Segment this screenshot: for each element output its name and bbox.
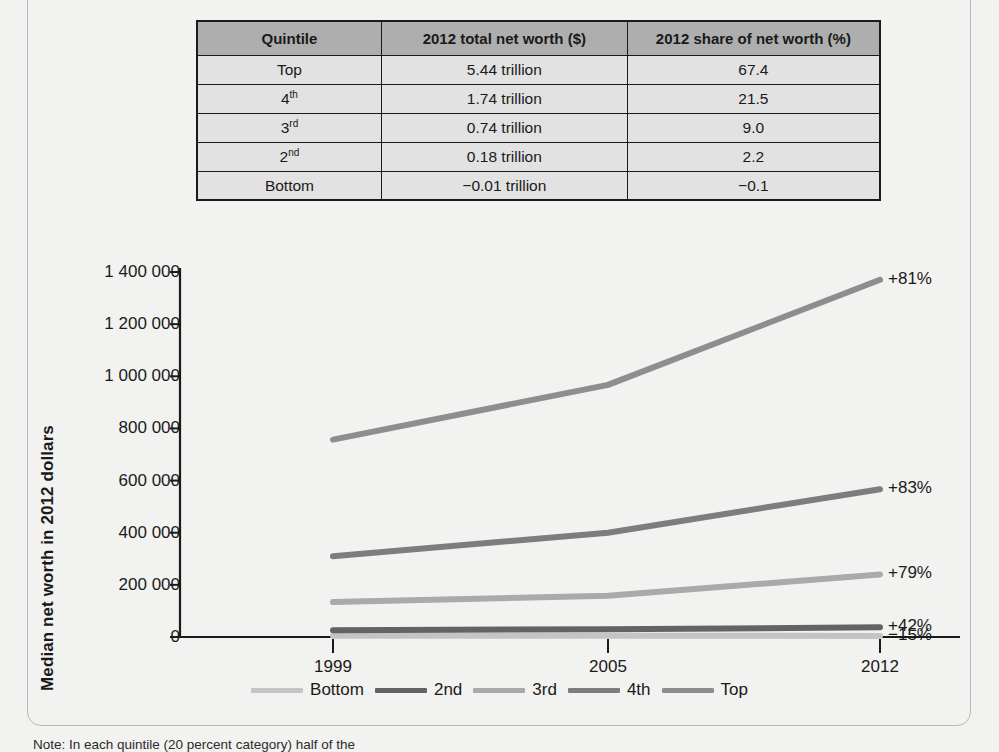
cell-net-worth: −0.01 trillion xyxy=(381,171,627,200)
line-chart: Median net worth in 2012 dollars 0200 00… xyxy=(0,248,999,718)
cell-quintile: 3rd xyxy=(197,113,381,142)
cell-quintile: Top xyxy=(197,56,381,85)
cell-share: 67.4 xyxy=(627,56,880,85)
legend-item-top[interactable]: Top xyxy=(662,680,748,700)
legend-label: 3rd xyxy=(532,680,557,700)
plot-canvas xyxy=(0,248,999,718)
table-row: 3rd0.74 trillion9.0 xyxy=(197,113,880,142)
cell-share: 9.0 xyxy=(627,113,880,142)
change-label-4th: +83% xyxy=(888,478,932,498)
cell-share: −0.1 xyxy=(627,171,880,200)
series-line-top xyxy=(333,280,880,440)
legend-swatch-icon xyxy=(473,688,525,693)
cell-net-worth: 0.18 trillion xyxy=(381,142,627,171)
cell-net-worth: 1.74 trillion xyxy=(381,85,627,114)
chart-legend: Bottom2nd3rd4thTop xyxy=(0,680,999,700)
note-text: Note: In each quintile (20 percent categ… xyxy=(33,737,983,752)
cell-quintile: 4th xyxy=(197,85,381,114)
legend-item-2nd[interactable]: 2nd xyxy=(375,680,462,700)
legend-label: 2nd xyxy=(434,680,462,700)
table-row: 2nd0.18 trillion2.2 xyxy=(197,142,880,171)
legend-swatch-icon xyxy=(375,688,427,693)
legend-swatch-icon xyxy=(568,688,620,693)
x-tick-label: 2005 xyxy=(589,657,627,677)
cell-quintile: Bottom xyxy=(197,171,381,200)
table-header-row: Quintile 2012 total net worth ($) 2012 s… xyxy=(197,21,880,56)
table-row: Bottom−0.01 trillion−0.1 xyxy=(197,171,880,200)
table-row: 4th1.74 trillion21.5 xyxy=(197,85,880,114)
legend-swatch-icon xyxy=(251,688,303,693)
table-header-net-worth: 2012 total net worth ($) xyxy=(381,21,627,56)
legend-item-4th[interactable]: 4th xyxy=(568,680,651,700)
cell-share: 21.5 xyxy=(627,85,880,114)
table-row: Top5.44 trillion67.4 xyxy=(197,56,880,85)
series-line-4th xyxy=(333,489,880,556)
cell-quintile: 2nd xyxy=(197,142,381,171)
table-header-quintile: Quintile xyxy=(197,21,381,56)
series-line-2nd xyxy=(333,627,880,630)
legend-item-bottom[interactable]: Bottom xyxy=(251,680,364,700)
x-tick-label: 1999 xyxy=(314,657,352,677)
legend-label: Top xyxy=(721,680,748,700)
change-label-3rd: +79% xyxy=(888,563,932,583)
net-worth-table: Quintile 2012 total net worth ($) 2012 s… xyxy=(196,20,881,201)
cell-net-worth: 0.74 trillion xyxy=(381,113,627,142)
legend-item-3rd[interactable]: 3rd xyxy=(473,680,557,700)
legend-label: Bottom xyxy=(310,680,364,700)
legend-label: 4th xyxy=(627,680,651,700)
cell-net-worth: 5.44 trillion xyxy=(381,56,627,85)
cell-share: 2.2 xyxy=(627,142,880,171)
change-label-2nd: +42% xyxy=(888,616,932,636)
change-label-top: +81% xyxy=(888,269,932,289)
series-line-3rd xyxy=(333,574,880,602)
legend-swatch-icon xyxy=(662,688,714,693)
x-tick-label: 2012 xyxy=(861,657,899,677)
table-header-share: 2012 share of net worth (%) xyxy=(627,21,880,56)
